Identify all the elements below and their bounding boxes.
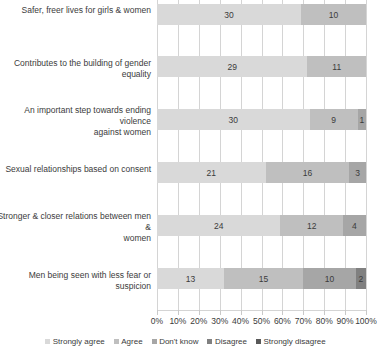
bar-segment: 24	[157, 215, 280, 236]
category-label: Men being seen with less fear or suspici…	[0, 270, 151, 292]
legend-label: Strongly agree	[53, 337, 105, 346]
axis-tick	[199, 310, 200, 315]
axis-tick-label: 40%	[232, 316, 249, 326]
axis-tick	[220, 310, 221, 315]
axis-tick	[345, 310, 346, 315]
legend-item[interactable]: Strongly agree	[45, 337, 105, 346]
x-axis-ticks	[157, 310, 366, 315]
bar-segment: 16	[266, 162, 350, 183]
bar-segment: 1	[358, 109, 366, 130]
legend-label: Disagree	[215, 337, 247, 346]
bar-segment: 30	[157, 109, 310, 130]
category-label: Contributes to the building of gender eq…	[0, 58, 151, 80]
bar-segment: 10	[301, 4, 366, 25]
bar-row: 24124	[157, 215, 366, 236]
bar-row: 21163	[157, 162, 366, 183]
chart-legend: Strongly agreeAgreeDon't knowDisagreeStr…	[0, 334, 371, 348]
bar-segment: 29	[157, 56, 307, 77]
axis-tick	[366, 310, 367, 315]
legend-swatch-icon	[45, 339, 50, 344]
x-axis-tick-labels: 0%10%20%30%40%50%60%70%80%90%100%	[0, 316, 371, 328]
category-label: Stronger & closer relations between men …	[0, 211, 151, 244]
bar-row: 1315102	[157, 268, 366, 289]
bar-segment: 2	[356, 268, 366, 289]
legend-item[interactable]: Don't know	[152, 337, 199, 346]
axis-tick-label: 70%	[295, 316, 312, 326]
axis-tick-label: 100%	[355, 316, 377, 326]
category-label: Sexual relationships based on consent	[0, 164, 151, 175]
bar-segment: 11	[307, 56, 366, 77]
legend-swatch-icon	[207, 339, 212, 344]
bar-segment: 10	[303, 268, 355, 289]
axis-tick	[178, 310, 179, 315]
bar-row: 3010	[157, 4, 366, 25]
bar-segment: 21	[157, 162, 266, 183]
legend-item[interactable]: Agree	[114, 337, 143, 346]
gridline	[366, 0, 367, 310]
axis-tick-label: 80%	[316, 316, 333, 326]
category-label: An important step towards ending violenc…	[0, 105, 151, 138]
bar-segment: 15	[224, 268, 303, 289]
axis-tick-label: 10%	[169, 316, 186, 326]
axis-tick	[324, 310, 325, 315]
legend-item[interactable]: Strongly disagree	[256, 337, 326, 346]
axis-tick	[282, 310, 283, 315]
bar-segment: 13	[157, 268, 224, 289]
legend-label: Don't know	[159, 337, 198, 346]
bar-segment: 12	[280, 215, 343, 236]
category-label: Safer, freer lives for girls & women	[0, 5, 151, 16]
axis-tick	[241, 310, 242, 315]
axis-tick	[157, 310, 158, 315]
axis-tick-label: 50%	[253, 316, 270, 326]
legend-swatch-icon	[152, 339, 157, 344]
legend-label: Agree	[121, 337, 142, 346]
axis-tick-label: 30%	[211, 316, 228, 326]
bar-segment: 9	[310, 109, 358, 130]
bar-segment: 3	[349, 162, 366, 183]
legend-item[interactable]: Disagree	[207, 337, 247, 346]
bar-rows: 30102911309121163241241315102	[157, 0, 366, 310]
legend-label: Strongly disagree	[263, 337, 325, 346]
legend-swatch-icon	[256, 339, 261, 344]
category-axis-labels: Safer, freer lives for girls & womenCont…	[0, 0, 155, 310]
axis-tick	[303, 310, 304, 315]
legend-swatch-icon	[114, 339, 119, 344]
axis-tick	[262, 310, 263, 315]
bar-row: 2911	[157, 56, 366, 77]
plot-area: 30102911309121163241241315102	[157, 0, 366, 310]
bar-segment: 4	[343, 215, 366, 236]
axis-tick-label: 0%	[151, 316, 163, 326]
axis-tick-label: 60%	[274, 316, 291, 326]
bar-row: 3091	[157, 109, 366, 130]
axis-tick-label: 20%	[190, 316, 207, 326]
bar-segment: 30	[157, 4, 301, 25]
axis-tick-label: 90%	[337, 316, 354, 326]
